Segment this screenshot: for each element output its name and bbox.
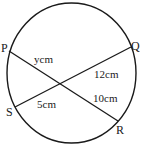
length-label-px: ycm bbox=[34, 53, 53, 65]
length-label-xr: 10cm bbox=[93, 92, 118, 104]
point-label-p: P bbox=[1, 41, 8, 55]
point-label-q: Q bbox=[131, 39, 140, 53]
length-label-sx: 5cm bbox=[37, 98, 56, 110]
point-label-r: R bbox=[116, 123, 124, 137]
circle-chords-diagram: P Q S R ycm 12cm 10cm 5cm bbox=[0, 0, 141, 150]
length-label-xq: 12cm bbox=[94, 68, 119, 80]
point-label-s: S bbox=[6, 105, 13, 119]
